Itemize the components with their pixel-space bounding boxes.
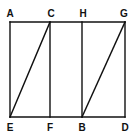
segment-BG — [82, 22, 125, 117]
geometry-diagram: A C H G E F B D — [0, 0, 137, 133]
point-labels: A C H G E F B D — [6, 8, 128, 133]
label-H: H — [79, 8, 86, 19]
label-A: A — [6, 8, 13, 19]
label-F: F — [47, 122, 53, 133]
label-B: B — [78, 122, 85, 133]
label-G: G — [120, 8, 128, 19]
label-E: E — [7, 122, 14, 133]
label-C: C — [47, 8, 54, 19]
diagram-lines — [10, 22, 125, 117]
label-D: D — [121, 122, 128, 133]
segment-EC — [10, 22, 50, 117]
